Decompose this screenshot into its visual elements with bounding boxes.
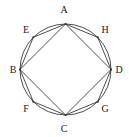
vertex-label-f: F xyxy=(23,104,29,114)
vertex-label-g: G xyxy=(101,104,108,114)
geometry-figure: AHDGCFBE xyxy=(0,0,129,137)
octagon-edge-FC xyxy=(33,102,65,115)
vertex-dot-h xyxy=(97,36,99,38)
vertex-dot-b xyxy=(19,68,21,70)
vertex-label-d: D xyxy=(115,65,122,75)
vertex-dot-a xyxy=(64,23,66,25)
vertex-label-b: B xyxy=(10,65,17,75)
octagon-edge-BF xyxy=(20,70,33,102)
vertex-dot-g xyxy=(97,101,99,103)
octagon-edge-GD xyxy=(98,70,111,102)
octagon-edge-AE xyxy=(33,24,65,37)
vertex-label-h: H xyxy=(101,25,108,35)
figure-canvas xyxy=(0,0,129,137)
vertex-dot-layer xyxy=(19,23,112,116)
vertex-label-c: C xyxy=(61,124,68,134)
vertex-label-e: E xyxy=(23,25,29,35)
octagon-edge-DH xyxy=(98,37,111,69)
vertex-dot-c xyxy=(64,114,66,116)
octagon-edge-CG xyxy=(66,102,98,115)
octagon-edge-EB xyxy=(20,37,33,69)
vertex-dot-e xyxy=(32,36,34,38)
vertex-label-a: A xyxy=(60,5,67,15)
octagon-edge-HA xyxy=(66,24,98,37)
vertex-dot-d xyxy=(110,68,112,70)
vertex-dot-f xyxy=(32,101,34,103)
